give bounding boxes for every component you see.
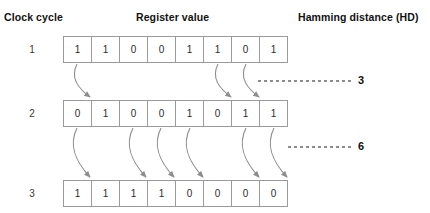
- hd-value-1-to-2: 3: [358, 74, 364, 86]
- diagram-canvas: Clock cycle Register value Hamming dista…: [0, 0, 430, 213]
- register-bit: 0: [64, 101, 92, 126]
- register-bit: 1: [92, 181, 120, 206]
- bit-change-arrow: [242, 128, 259, 177]
- column-header-hamming-distance: Hamming distance (HD): [298, 11, 419, 23]
- bit-change-arrow: [186, 128, 203, 177]
- register-bit: 1: [260, 101, 287, 126]
- change-arrows-2-to-3: [73, 128, 287, 177]
- register-bit: 1: [64, 181, 92, 206]
- register-bit: 1: [260, 37, 287, 62]
- change-arrows-1-to-2: [74, 64, 259, 97]
- bit-change-arrow: [74, 64, 90, 97]
- register-bit: 1: [120, 181, 148, 206]
- register-bit: 1: [176, 101, 204, 126]
- cycle-label-2: 2: [22, 108, 42, 119]
- register-bit: 0: [120, 37, 148, 62]
- register-bit: 0: [232, 37, 260, 62]
- register-bit: 1: [232, 101, 260, 126]
- register-bit: 1: [92, 37, 120, 62]
- bit-change-arrow: [243, 64, 259, 97]
- bit-change-arrow: [215, 64, 231, 97]
- bit-change-arrow: [129, 128, 146, 177]
- bit-change-arrow: [73, 128, 90, 177]
- register-bit: 0: [204, 181, 232, 206]
- register-bit: 0: [120, 101, 148, 126]
- register-row-cycle-3: 1 1 1 1 0 0 0 0: [63, 180, 288, 207]
- register-bit: 0: [204, 101, 232, 126]
- register-bit: 1: [176, 37, 204, 62]
- register-bit: 1: [64, 37, 92, 62]
- column-header-register-value: Register value: [136, 11, 209, 23]
- bit-change-arrow: [270, 128, 287, 177]
- hd-value-2-to-3: 6: [358, 140, 364, 152]
- register-bit: 0: [176, 181, 204, 206]
- register-bit: 1: [92, 101, 120, 126]
- register-bit: 1: [148, 181, 176, 206]
- bit-change-arrow: [157, 128, 174, 177]
- register-row-cycle-2: 0 1 0 0 1 0 1 1: [63, 100, 288, 127]
- register-bit: 0: [232, 181, 260, 206]
- register-bit: 0: [148, 37, 176, 62]
- register-bit: 0: [148, 101, 176, 126]
- register-bit: 1: [204, 37, 232, 62]
- register-row-cycle-1: 1 1 0 0 1 1 0 1: [63, 36, 288, 63]
- register-bit: 0: [260, 181, 287, 206]
- column-header-clock-cycle: Clock cycle: [4, 11, 63, 23]
- cycle-label-3: 3: [22, 188, 42, 199]
- cycle-label-1: 1: [22, 44, 42, 55]
